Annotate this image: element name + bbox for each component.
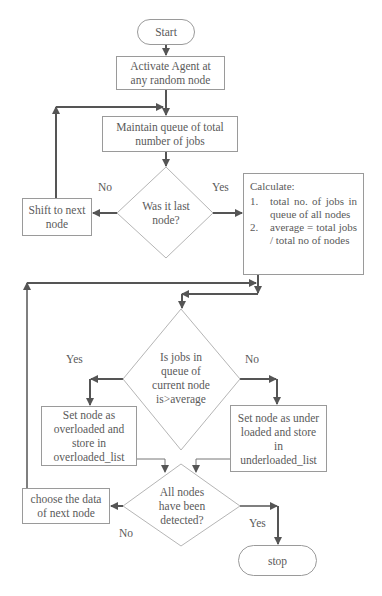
underloaded-box: Set node as under loaded and store in un…: [230, 405, 327, 472]
label-no-all-detected: No: [119, 527, 133, 539]
activate-agent-text: Activate Agent at any random node: [121, 59, 220, 87]
calculate-box: Calculate: 1. total no. of jobs in queue…: [243, 173, 364, 275]
label-yes-all-detected: Yes: [249, 517, 266, 529]
step-text: total no. of jobs in queue of all nodes: [270, 195, 357, 221]
flowchart-canvas: Start Activate Agent at any random node …: [0, 0, 382, 596]
start-label: Start: [155, 25, 177, 39]
decision-above-average-label: Is jobs in queue of current node is>aver…: [149, 350, 213, 406]
overloaded-box: Set node as overloaded and store in over…: [41, 406, 137, 466]
decision-above-average-text: Is jobs in queue of current node is>aver…: [138, 342, 224, 414]
maintain-queue-text: Maintain queue of total number of jobs: [107, 120, 233, 148]
overloaded-text: Set node as overloaded and store in over…: [46, 408, 132, 464]
step-number: 1.: [250, 195, 270, 221]
shift-next-node-text: Shift to next node: [27, 203, 87, 231]
underloaded-text: Set node as under loaded and store in un…: [235, 411, 322, 467]
choose-next-node-box: choose the data of next node: [22, 488, 110, 524]
maintain-queue-box: Maintain queue of total number of jobs: [102, 116, 238, 152]
choose-next-node-text: choose the data of next node: [27, 492, 105, 520]
step-text: average = total jobs / total no of nodes: [270, 221, 357, 247]
label-yes-above-average: Yes: [66, 353, 83, 365]
calculate-step: 2. average = total jobs / total no of no…: [250, 221, 357, 247]
calculate-steps: 1. total no. of jobs in queue of all nod…: [250, 195, 357, 247]
decision-all-detected-text: All nodes have been detected?: [148, 483, 216, 529]
step-number: 2.: [250, 221, 270, 247]
shift-next-node-box: Shift to next node: [22, 198, 92, 236]
start-terminator: Start: [137, 19, 195, 45]
decision-last-node-label: Was it last node?: [135, 199, 197, 227]
calculate-title: Calculate:: [250, 180, 357, 193]
label-no-last-node: No: [98, 181, 112, 193]
stop-terminator: stop: [238, 545, 317, 576]
decision-last-node-text: Was it last node?: [135, 190, 197, 236]
activate-agent-box: Activate Agent at any random node: [116, 56, 225, 90]
label-no-above-average: No: [245, 353, 259, 365]
calculate-step: 1. total no. of jobs in queue of all nod…: [250, 195, 357, 221]
label-yes-last-node: Yes: [212, 181, 229, 193]
stop-label: stop: [268, 554, 287, 568]
decision-all-detected-label: All nodes have been detected?: [148, 485, 216, 527]
